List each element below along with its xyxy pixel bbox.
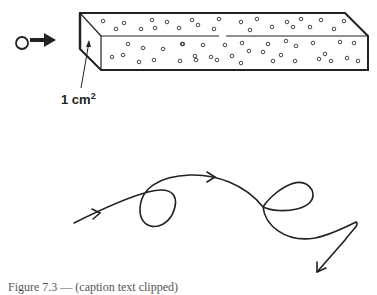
direction-arrow-icon (30, 33, 56, 47)
area-label-superscript: 2 (91, 91, 96, 101)
area-pointer-arrowhead (86, 40, 91, 47)
target-atoms (101, 17, 360, 65)
incident-particle-icon (16, 37, 28, 49)
area-label: 1 cm2 (61, 91, 96, 107)
area-label-text: 1 cm (61, 92, 91, 107)
figure-caption: Figure 7.3 — (caption text clipped) (8, 280, 178, 295)
particle-trajectory (74, 172, 357, 272)
area-pointer-line (81, 42, 89, 88)
